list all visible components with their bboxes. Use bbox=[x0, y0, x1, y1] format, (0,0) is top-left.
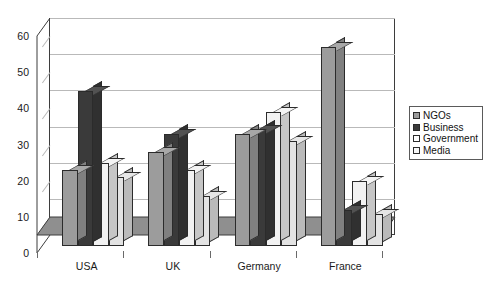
legend: NGOsBusinessGovernmentMedia bbox=[409, 106, 483, 160]
bar-side bbox=[250, 124, 259, 241]
bar bbox=[235, 134, 251, 246]
bar-side bbox=[266, 120, 275, 241]
legend-item: Business bbox=[413, 122, 478, 134]
y-axis-tick-label: 10 bbox=[17, 212, 29, 222]
x-axis-tick-label: USA bbox=[76, 260, 98, 272]
legend-swatch-icon bbox=[413, 112, 420, 119]
y-axis-tick-label: 0 bbox=[23, 248, 29, 258]
bar-face bbox=[62, 170, 78, 246]
bar-face bbox=[321, 47, 337, 246]
x-axis-tick-label: UK bbox=[166, 260, 181, 272]
legend-swatch-icon bbox=[413, 124, 420, 131]
bar bbox=[321, 47, 337, 246]
bar-series-container bbox=[37, 18, 395, 253]
bar-side bbox=[179, 124, 188, 241]
x-axis-separator bbox=[382, 251, 383, 258]
bar-side bbox=[297, 131, 306, 241]
x-axis-tick-label: France bbox=[329, 260, 362, 272]
plot-area bbox=[37, 18, 395, 253]
bar-face bbox=[235, 134, 251, 246]
bar-side bbox=[336, 37, 345, 241]
legend-item-label: NGOs bbox=[423, 110, 451, 122]
y-axis-tick-label: 20 bbox=[17, 176, 29, 186]
legend-item: Government bbox=[413, 133, 478, 145]
y-axis-tick-label: 30 bbox=[17, 140, 29, 150]
y-axis-tick-label: 40 bbox=[17, 103, 29, 113]
legend-item-label: Media bbox=[423, 145, 450, 157]
legend-item-label: Business bbox=[423, 122, 464, 134]
x-axis-separator bbox=[210, 251, 211, 258]
bar bbox=[62, 170, 78, 246]
y-axis: 0102030405060 bbox=[0, 0, 33, 291]
y-axis-tick-label: 60 bbox=[17, 31, 29, 41]
x-axis-tick-label: Germany bbox=[238, 260, 281, 272]
bar bbox=[148, 152, 164, 246]
x-axis-separator bbox=[123, 251, 124, 258]
legend-swatch-icon bbox=[413, 135, 420, 142]
legend-swatch-icon bbox=[413, 147, 420, 154]
bar-side bbox=[93, 81, 102, 242]
bar-side bbox=[109, 153, 118, 241]
bar-face bbox=[148, 152, 164, 246]
x-axis-separator bbox=[37, 251, 38, 258]
x-axis: USAUKGermanyFrance bbox=[37, 258, 407, 278]
legend-item: NGOs bbox=[413, 110, 478, 122]
x-axis-separator bbox=[296, 251, 297, 258]
legend-item: Media bbox=[413, 145, 478, 157]
bar-chart: 0102030405060 USAUKGermanyFrance NGOsBus… bbox=[0, 0, 498, 291]
bar-side bbox=[164, 142, 173, 241]
legend-item-label: Government bbox=[423, 133, 478, 145]
y-axis-tick-label: 50 bbox=[17, 67, 29, 77]
bar-side bbox=[281, 102, 290, 241]
